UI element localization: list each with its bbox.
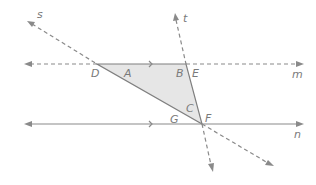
label-angle-a: A bbox=[123, 67, 132, 80]
arrowhead-icon bbox=[27, 21, 35, 27]
label-n: n bbox=[294, 128, 301, 141]
arrowhead-icon bbox=[296, 121, 304, 127]
label-s: s bbox=[37, 8, 43, 21]
label-point-f: F bbox=[205, 112, 212, 125]
triangle-def bbox=[97, 64, 202, 124]
geometry-diagram: s t m n D A B E C G F bbox=[0, 0, 316, 185]
line-n bbox=[24, 121, 304, 127]
arrowhead-icon bbox=[265, 160, 274, 166]
label-angle-g: G bbox=[170, 113, 179, 126]
arrowhead-icon bbox=[173, 13, 179, 21]
label-angle-b: B bbox=[176, 67, 184, 80]
arrowhead-icon bbox=[24, 61, 32, 67]
label-angle-c: C bbox=[186, 102, 194, 115]
arrowhead-icon bbox=[208, 163, 214, 172]
label-t: t bbox=[183, 12, 188, 25]
label-point-d: D bbox=[91, 67, 99, 80]
arrowhead-icon bbox=[296, 61, 304, 67]
label-m: m bbox=[292, 68, 303, 81]
label-point-e: E bbox=[192, 67, 199, 80]
arrowhead-icon bbox=[24, 121, 32, 127]
